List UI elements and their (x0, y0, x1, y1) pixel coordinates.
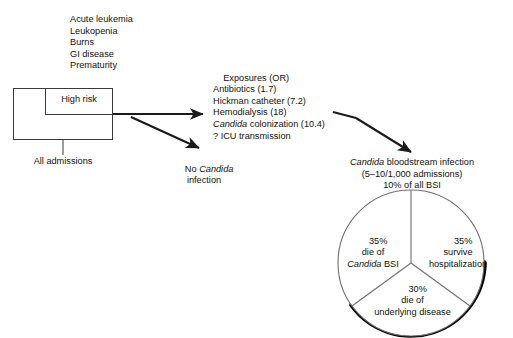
pie-slice-left-line2: die of (362, 247, 384, 257)
pie-slice-right-percent: 35% (454, 236, 472, 246)
pie-slice-left-line3: BSI (381, 259, 398, 269)
figure-canvas: Acute leukemia Leukopenia Burns GI disea… (0, 0, 513, 338)
arrow-colonization-connector (333, 112, 356, 118)
pie-slice-bottom-line3: underlying disease (374, 307, 451, 317)
pie-slice-left-genus: Candida (347, 259, 381, 269)
pie-slice-right-line3: hospitalization (429, 259, 487, 269)
pie-slice-label-die-of-underlying-disease: 30% die of underlying disease (340, 272, 485, 330)
arrow-to-no-candida-infection (131, 117, 199, 148)
pie-slice-right-line2: survive (443, 247, 472, 257)
pie-slice-left-percent: 35% (369, 236, 387, 246)
arrow-exposures-to-bsi (356, 118, 411, 152)
pie-slice-bottom-percent: 30% (408, 284, 426, 294)
pie-slice-bottom-line2: die of (401, 295, 423, 305)
